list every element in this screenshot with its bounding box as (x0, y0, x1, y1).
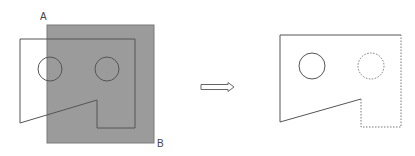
after-dotted-edges (361, 35, 401, 127)
transform-arrow-icon (201, 83, 234, 92)
diagram-canvas: A B (0, 0, 415, 156)
corner-label-b: B (157, 139, 164, 149)
after-solid-edges (280, 35, 401, 122)
diagram-svg (0, 0, 415, 156)
selection-window (47, 25, 154, 143)
corner-label-a: A (40, 12, 47, 22)
after-circle-dotted (358, 53, 384, 79)
after-circle-solid (299, 53, 325, 79)
